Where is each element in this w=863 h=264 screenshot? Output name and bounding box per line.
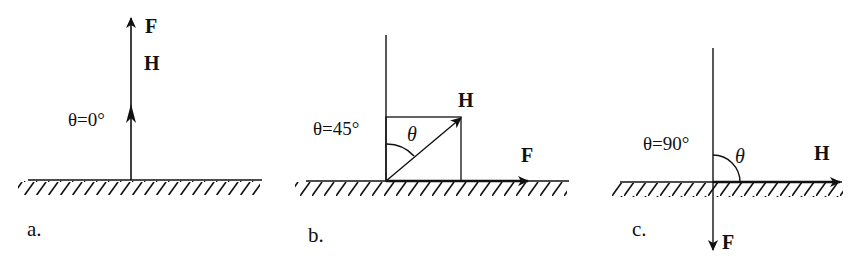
panel-a: F H θ=0° a. xyxy=(18,15,262,241)
theta-symbol: θ xyxy=(407,123,417,145)
label-h: H xyxy=(814,142,830,164)
ground-surface xyxy=(611,182,843,197)
label-h: H xyxy=(458,89,474,111)
vector-h xyxy=(386,118,461,181)
angle-label: θ=45° xyxy=(313,118,359,139)
label-f: F xyxy=(722,231,734,253)
panel-c: H F θ=90° θ c. xyxy=(611,48,843,253)
panel-caption: a. xyxy=(27,217,42,241)
label-f: F xyxy=(145,15,157,37)
angle-arc xyxy=(386,144,414,156)
ground-surface xyxy=(295,181,569,196)
ground-surface xyxy=(18,180,262,195)
theta-symbol: θ xyxy=(735,145,745,167)
label-f: F xyxy=(521,144,533,166)
panel-caption: b. xyxy=(308,223,324,247)
label-h: H xyxy=(144,52,160,74)
angle-label: θ=90° xyxy=(643,133,689,154)
angle-label: θ=0° xyxy=(68,109,105,130)
panel-caption: c. xyxy=(632,217,647,241)
panel-b: H F θ=45° θ b. xyxy=(295,35,569,247)
force-diagram: F H θ=0° a. H F θ=45° θ b. H F θ=90° θ c xyxy=(0,0,863,264)
